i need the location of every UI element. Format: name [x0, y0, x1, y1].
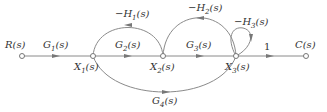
arrow-unity-icon	[266, 54, 274, 58]
node-x2	[161, 54, 166, 59]
label-g3: G3(s)	[186, 40, 211, 53]
arrow-g4-icon	[162, 90, 170, 94]
label-g4: G4(s)	[152, 96, 177, 109]
label-h2: −H2(s)	[188, 3, 223, 16]
arrow-h2-icon	[196, 16, 204, 20]
branch-h3	[231, 28, 251, 56]
label-x1: X1(s)	[74, 62, 99, 75]
node-r	[20, 54, 25, 59]
label-x3: X3(s)	[225, 62, 250, 75]
arrow-g3-icon	[196, 54, 204, 58]
label-unity: 1	[264, 42, 270, 52]
node-x3	[234, 54, 239, 59]
label-x2: X2(s)	[150, 62, 175, 75]
arrow-h1-icon	[124, 23, 132, 27]
node-c	[304, 54, 309, 59]
label-g1: G1(s)	[43, 40, 68, 53]
label-h3: −H3(s)	[234, 17, 269, 30]
signal-flow-graph: R(s) C(s) X1(s) X2(s) X3(s) G1(s) G2(s) …	[0, 0, 327, 112]
label-g2: G2(s)	[115, 40, 140, 53]
arrow-h3-icon	[249, 34, 253, 42]
arrow-g2-icon	[124, 54, 132, 58]
node-x1	[91, 54, 96, 59]
label-h1: −H1(s)	[115, 9, 150, 22]
label-c: C(s)	[295, 40, 316, 50]
label-r: R(s)	[5, 40, 25, 50]
arrow-g1-icon	[52, 54, 60, 58]
